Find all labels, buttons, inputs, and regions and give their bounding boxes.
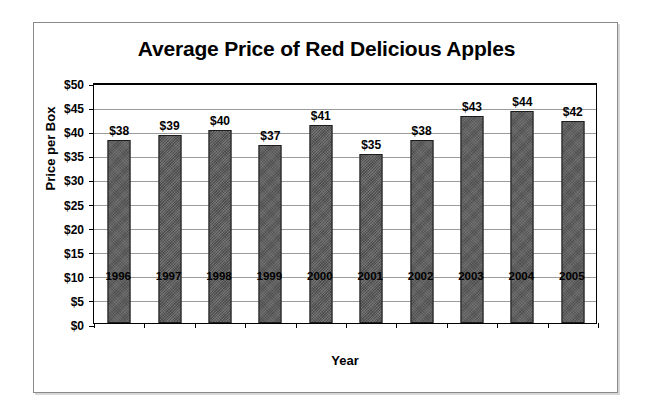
x-tick-label: 2004	[496, 270, 546, 282]
x-tick-mark	[346, 323, 347, 328]
x-tick-label: 2002	[395, 270, 445, 282]
bar-slot: $39	[144, 85, 194, 323]
bar-slot: $38	[94, 85, 144, 323]
y-tick-label: $50	[38, 78, 84, 92]
x-tick-mark	[144, 323, 145, 328]
bar[interactable]	[410, 140, 433, 323]
bar-value-label: $39	[160, 119, 180, 133]
bar-value-label: $38	[109, 124, 129, 138]
bar-slot: $43	[447, 85, 497, 323]
y-tick-label: $15	[38, 247, 84, 261]
x-tick-label: 1999	[244, 270, 294, 282]
bar-value-label: $38	[412, 124, 432, 138]
bar[interactable]	[108, 140, 131, 323]
x-tick-label: 2005	[547, 270, 597, 282]
y-tick-label: $0	[38, 319, 84, 333]
x-tick-mark	[598, 323, 599, 328]
y-tick-label: $30	[38, 174, 84, 188]
x-tick-mark	[296, 323, 297, 328]
x-tick-label: 2001	[345, 270, 395, 282]
x-tick-label: 2000	[295, 270, 345, 282]
y-tick-label: $10	[38, 271, 84, 285]
bar-slot: $38	[396, 85, 446, 323]
bar-value-label: $37	[260, 129, 280, 143]
x-tick-mark	[497, 323, 498, 328]
bar[interactable]	[360, 154, 383, 323]
chart-title: Average Price of Red Delicious Apples	[34, 37, 619, 61]
y-tick-label: $40	[38, 126, 84, 140]
x-tick-mark	[195, 323, 196, 328]
bar-value-label: $44	[512, 95, 532, 109]
x-tick-mark	[94, 323, 95, 328]
x-tick-label: 1996	[93, 270, 143, 282]
bar-slot: $35	[346, 85, 396, 323]
y-tick-label: $5	[38, 295, 84, 309]
bar[interactable]	[511, 111, 534, 323]
x-tick-mark	[447, 323, 448, 328]
bar[interactable]	[309, 125, 332, 323]
y-tick-label: $25	[38, 199, 84, 213]
bar-slot: $40	[195, 85, 245, 323]
bar-value-label: $43	[462, 100, 482, 114]
bar[interactable]	[208, 130, 231, 323]
bar-value-label: $35	[361, 138, 381, 152]
bar-value-label: $42	[563, 105, 583, 119]
x-tick-label: 1997	[143, 270, 193, 282]
x-tick-mark	[396, 323, 397, 328]
bar[interactable]	[158, 135, 181, 323]
bar-slot: $41	[296, 85, 346, 323]
x-tick-label: 2003	[446, 270, 496, 282]
bar-slot: $44	[497, 85, 547, 323]
bar-value-label: $40	[210, 114, 230, 128]
plot-area: $50$45$40$35$30$25$20$15$10$5$0$38$39$40…	[93, 83, 597, 324]
bar[interactable]	[460, 116, 483, 323]
bar-value-label: $41	[311, 109, 331, 123]
y-tick-label: $45	[38, 102, 84, 116]
y-tick-label: $35	[38, 150, 84, 164]
x-axis-title: Year	[93, 353, 597, 368]
bar-slot: $42	[548, 85, 598, 323]
y-tick-label: $20	[38, 223, 84, 237]
bar-slot: $37	[245, 85, 295, 323]
x-tick-mark	[548, 323, 549, 328]
chart-frame: Average Price of Red Delicious Apples Pr…	[33, 22, 618, 393]
bar[interactable]	[259, 145, 282, 323]
x-tick-mark	[245, 323, 246, 328]
x-tick-label: 1998	[194, 270, 244, 282]
bar[interactable]	[561, 121, 584, 323]
